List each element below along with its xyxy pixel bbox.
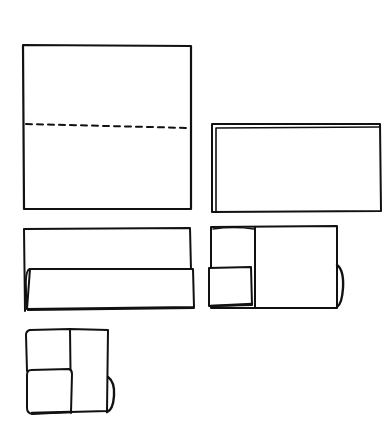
step-4-side-fold: [209, 226, 343, 308]
step-5-flap-bottom: [32, 412, 70, 413]
step-5-left-top: [26, 330, 30, 371]
step-1-square-sheet: [23, 45, 191, 209]
step-1-fold-line: [26, 124, 190, 128]
step-2-outline: [212, 124, 381, 212]
step-5-flap: [27, 369, 72, 414]
step-5-final-fold: [26, 329, 114, 414]
step-2-folded-rectangle: [212, 124, 381, 212]
step-4-flap: [209, 267, 252, 306]
step-2-inner-edge: [216, 127, 380, 212]
step-3-bottom-fold: [24, 228, 194, 311]
folding-diagram: [0, 0, 392, 434]
step-1-outline: [23, 45, 191, 209]
step-4-top-curve: [213, 228, 254, 230]
step-3-flap: [27, 269, 194, 309]
